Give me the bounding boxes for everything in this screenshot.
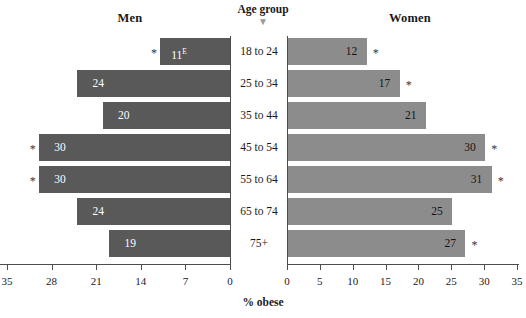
women-axis-tick xyxy=(320,265,321,270)
women-significance-marker: * xyxy=(491,134,497,161)
age-group-label: 35 to 44 xyxy=(231,102,287,129)
men-axis-tick-label: 0 xyxy=(215,275,245,287)
women-bar-row: 12* xyxy=(287,38,519,65)
women-bar-row: 31* xyxy=(287,166,519,193)
women-bar-value-label: 25 xyxy=(431,198,443,225)
men-bar xyxy=(39,134,230,161)
women-bar xyxy=(288,166,492,193)
age-group-label: 18 to 24 xyxy=(231,38,287,65)
age-group-label: 45 to 54 xyxy=(231,134,287,161)
men-bar-value-label: 11E xyxy=(171,38,187,65)
men-axis-tick xyxy=(141,265,142,270)
men-bar-value-label: 30 xyxy=(54,134,66,161)
men-axis-tick-label: 28 xyxy=(37,275,67,287)
men-significance-marker: * xyxy=(30,134,36,161)
men-category-axis-line xyxy=(0,264,231,265)
men-axis-tick-label: 35 xyxy=(0,275,22,287)
women-significance-marker: * xyxy=(498,166,504,193)
women-axis-tick-label: 30 xyxy=(469,275,499,287)
men-bar-row: 19 xyxy=(0,230,231,257)
men-plot-area: 11E*242030*30*2419 3528211470 xyxy=(0,36,231,264)
men-bar-value-label: 20 xyxy=(118,102,130,129)
women-axis-tick-label: 20 xyxy=(403,275,433,287)
men-axis-tick xyxy=(185,265,186,270)
men-bar-value-label: 24 xyxy=(93,70,105,97)
men-bar-row: 24 xyxy=(0,198,231,225)
men-bar-row: 24 xyxy=(0,70,231,97)
men-axis-tick-label: 14 xyxy=(126,275,156,287)
women-bar-row: 27* xyxy=(287,230,519,257)
men-axis-tick xyxy=(7,265,8,270)
women-axis-tick xyxy=(418,265,419,270)
women-axis-tick xyxy=(484,265,485,270)
women-bar-row: 21 xyxy=(287,102,519,129)
women-plot-area: 12*17*2130*31*2527* 05101520253035 xyxy=(287,36,519,264)
age-group-label: 25 to 34 xyxy=(231,70,287,97)
women-significance-marker: * xyxy=(471,230,477,257)
age-group-label: 65 to 74 xyxy=(231,198,287,225)
women-axis-tick xyxy=(451,265,452,270)
men-bar-value-label: 24 xyxy=(93,198,105,225)
women-bar-row: 25 xyxy=(287,198,519,225)
women-axis-tick xyxy=(517,265,518,270)
age-group-label: 55 to 64 xyxy=(231,166,287,193)
men-bar-row: 30* xyxy=(0,134,231,161)
women-bar-value-label: 30 xyxy=(464,134,476,161)
age-group-label: 75+ xyxy=(231,230,287,257)
women-axis-tick-label: 25 xyxy=(436,275,466,287)
women-significance-marker: * xyxy=(406,70,412,97)
x-axis-caption: % obese xyxy=(0,296,526,308)
women-axis-tick-label: 5 xyxy=(305,275,335,287)
men-axis-tick-label: 21 xyxy=(81,275,111,287)
men-bar-value-label: 30 xyxy=(54,166,66,193)
men-bar-row: 11E* xyxy=(0,38,231,65)
men-axis-tick xyxy=(96,265,97,270)
men-bar-row: 20 xyxy=(0,102,231,129)
men-bar-value-label: 19 xyxy=(124,230,136,257)
men-axis-tick xyxy=(230,265,231,270)
men-bar-row: 30* xyxy=(0,166,231,193)
women-bar xyxy=(288,230,465,257)
women-bar-value-label: 27 xyxy=(444,230,456,257)
men-panel-title: Men xyxy=(70,11,190,26)
women-axis-tick xyxy=(386,265,387,270)
women-bar-value-label: 21 xyxy=(405,102,417,129)
men-bar xyxy=(39,166,230,193)
women-significance-marker: * xyxy=(373,38,379,65)
women-bar-row: 30* xyxy=(287,134,519,161)
women-bar-row: 17* xyxy=(287,70,519,97)
men-axis-tick-label: 7 xyxy=(170,275,200,287)
women-bar-value-label: 31 xyxy=(471,166,483,193)
women-bar xyxy=(288,134,485,161)
women-axis-tick-label: 35 xyxy=(502,275,526,287)
men-bar-value-superscript: E xyxy=(182,47,187,56)
women-panel-title: Women xyxy=(350,11,470,26)
women-axis-tick-label: 15 xyxy=(371,275,401,287)
women-axis-tick-label: 10 xyxy=(338,275,368,287)
women-axis-tick xyxy=(287,265,288,270)
age-group-column: 18 to 2425 to 3435 to 4445 to 5455 to 64… xyxy=(231,36,287,264)
age-group-heading: Age group xyxy=(222,3,304,15)
women-bar-value-label: 17 xyxy=(379,70,391,97)
women-bar-value-label: 12 xyxy=(346,38,358,65)
obesity-pyramid-chart: Men Women Age group ▼ 11E*242030*30*2419… xyxy=(0,0,526,318)
men-significance-marker: * xyxy=(151,38,157,65)
women-bar xyxy=(288,198,452,225)
men-significance-marker: * xyxy=(30,166,36,193)
women-axis-tick xyxy=(353,265,354,270)
chevron-down-icon: ▼ xyxy=(222,17,304,27)
men-axis-tick xyxy=(52,265,53,270)
women-axis-tick-label: 0 xyxy=(272,275,302,287)
